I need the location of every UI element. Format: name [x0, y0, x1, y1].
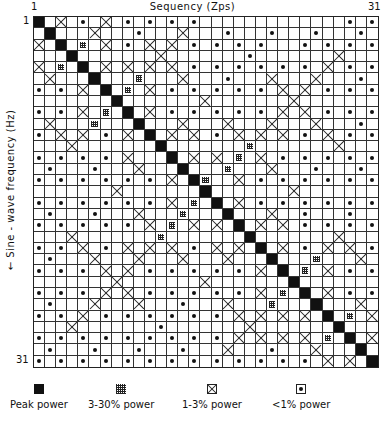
empty-cell: [212, 175, 223, 186]
empty-cell: [189, 186, 200, 197]
minimal-power-cell: [123, 40, 134, 51]
empty-cell: [212, 28, 223, 39]
empty-cell: [123, 254, 134, 265]
low-power-cell: [278, 311, 289, 322]
empty-cell: [34, 96, 45, 107]
empty-cell: [189, 73, 200, 84]
empty-cell: [256, 277, 267, 288]
power-matrix-grid: [33, 16, 379, 368]
minimal-power-cell: [300, 62, 311, 73]
low-power-cell: [278, 333, 289, 344]
low-power-cell: [34, 62, 45, 73]
minimal-power-cell: [34, 265, 45, 276]
empty-cell: [323, 119, 334, 130]
minimal-power-cell: [156, 322, 167, 333]
empty-cell: [267, 220, 278, 231]
empty-cell: [34, 141, 45, 152]
empty-cell: [167, 96, 178, 107]
mid-power-cell: [311, 254, 322, 265]
minimal-power-cell: [56, 175, 67, 186]
x-axis-title: Sequency (Zps): [0, 1, 385, 12]
empty-cell: [356, 209, 367, 220]
minimal-power-cell: [267, 344, 278, 355]
mid-power-cell: [245, 141, 256, 152]
minimal-power-cell: [345, 130, 356, 141]
empty-cell: [101, 28, 112, 39]
minimal-power-cell: [78, 175, 89, 186]
low-power-cell: [78, 130, 89, 141]
empty-cell: [278, 119, 289, 130]
empty-cell: [101, 322, 112, 333]
minimal-power-cell: [300, 220, 311, 231]
peak-power-cell: [334, 322, 345, 333]
empty-cell: [200, 220, 211, 231]
empty-cell: [112, 17, 123, 28]
empty-cell: [200, 288, 211, 299]
minimal-power-cell: [300, 209, 311, 220]
empty-cell: [323, 254, 334, 265]
empty-cell: [78, 254, 89, 265]
empty-cell: [267, 130, 278, 141]
empty-cell: [178, 85, 189, 96]
low-power-cell: [134, 254, 145, 265]
empty-cell: [234, 299, 245, 310]
empty-cell: [45, 186, 56, 197]
low-power-cell: [245, 322, 256, 333]
empty-cell: [156, 152, 167, 163]
empty-cell: [223, 198, 234, 209]
empty-cell: [112, 62, 123, 73]
empty-cell: [178, 175, 189, 186]
empty-cell: [356, 17, 367, 28]
low-power-cell: [256, 288, 267, 299]
mid-power-cell: [178, 209, 189, 220]
minimal-power-cell: [256, 62, 267, 73]
empty-cell: [200, 51, 211, 62]
empty-cell: [311, 152, 322, 163]
empty-cell: [56, 96, 67, 107]
empty-cell: [67, 96, 78, 107]
empty-cell: [267, 152, 278, 163]
empty-cell: [189, 164, 200, 175]
legend-item-dot: <1% power: [272, 384, 330, 410]
empty-cell: [134, 17, 145, 28]
empty-cell: [78, 96, 89, 107]
low-power-cell: [212, 243, 223, 254]
low-power-cell: [178, 73, 189, 84]
empty-cell: [67, 62, 78, 73]
minimal-power-cell: [56, 243, 67, 254]
empty-cell: [311, 186, 322, 197]
minimal-power-cell: [278, 152, 289, 163]
peak-power-cell: [356, 344, 367, 355]
empty-cell: [134, 186, 145, 197]
peak-power-cell: [178, 164, 189, 175]
empty-cell: [278, 40, 289, 51]
minimal-power-cell: [300, 130, 311, 141]
empty-cell: [134, 62, 145, 73]
empty-cell: [356, 220, 367, 231]
empty-cell: [178, 40, 189, 51]
empty-cell: [289, 152, 300, 163]
minimal-power-cell: [101, 220, 112, 231]
minimal-power-cell: [234, 85, 245, 96]
minimal-power-cell: [78, 17, 89, 28]
mid-power-cell: [123, 85, 134, 96]
empty-cell: [156, 265, 167, 276]
legend-label-peak: Peak power: [10, 399, 68, 410]
empty-cell: [267, 51, 278, 62]
minimal-power-cell: [45, 164, 56, 175]
empty-cell: [289, 254, 300, 265]
minimal-power-cell: [78, 288, 89, 299]
empty-cell: [334, 119, 345, 130]
low-power-cell: [356, 299, 367, 310]
minimal-power-cell: [167, 311, 178, 322]
empty-cell: [311, 141, 322, 152]
empty-cell: [78, 186, 89, 197]
peak-power-cell: [112, 96, 123, 107]
minimal-power-cell: [323, 220, 334, 231]
low-power-cell: [334, 232, 345, 243]
low-power-cell: [323, 243, 334, 254]
empty-cell: [67, 73, 78, 84]
empty-cell: [256, 28, 267, 39]
minimal-power-cell: [56, 333, 67, 344]
empty-cell: [300, 299, 311, 310]
